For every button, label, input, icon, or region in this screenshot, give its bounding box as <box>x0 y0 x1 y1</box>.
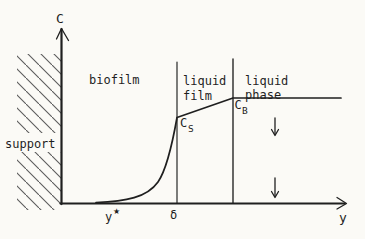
biofilm-label: biofilm <box>89 73 140 87</box>
hatch-lower <box>17 152 62 210</box>
biofilm-diagram: C y support biofilm liquid film liquid p… <box>0 0 365 239</box>
down-arrow-icon-2 <box>272 178 279 198</box>
concentration-profile-curve <box>96 98 341 203</box>
diagram-svg: C y support biofilm liquid film liquid p… <box>0 0 365 239</box>
svg-text:liquid: liquid <box>245 74 288 88</box>
delta-tick-label: δ <box>170 208 177 222</box>
liquid-film-label: liquid film <box>183 74 226 103</box>
y-axis-label: y <box>339 210 347 225</box>
cs-annotation: C S <box>180 116 194 134</box>
svg-text:B: B <box>242 105 248 116</box>
svg-text:y: y <box>105 210 112 224</box>
support-hatching <box>17 54 62 210</box>
hatch-upper <box>17 54 62 133</box>
svg-text:liquid: liquid <box>183 74 226 88</box>
down-arrow-icon-1 <box>272 118 279 136</box>
svg-text:S: S <box>188 123 194 134</box>
ystar-tick-label: y ★ <box>105 207 120 224</box>
svg-text:C: C <box>235 98 242 112</box>
c-axis-label: C <box>56 11 64 26</box>
support-label: support <box>5 137 56 151</box>
svg-text:film: film <box>183 89 212 103</box>
svg-text:phase: phase <box>245 88 281 102</box>
star-icon: ★ <box>113 207 120 216</box>
svg-text:C: C <box>180 116 187 130</box>
